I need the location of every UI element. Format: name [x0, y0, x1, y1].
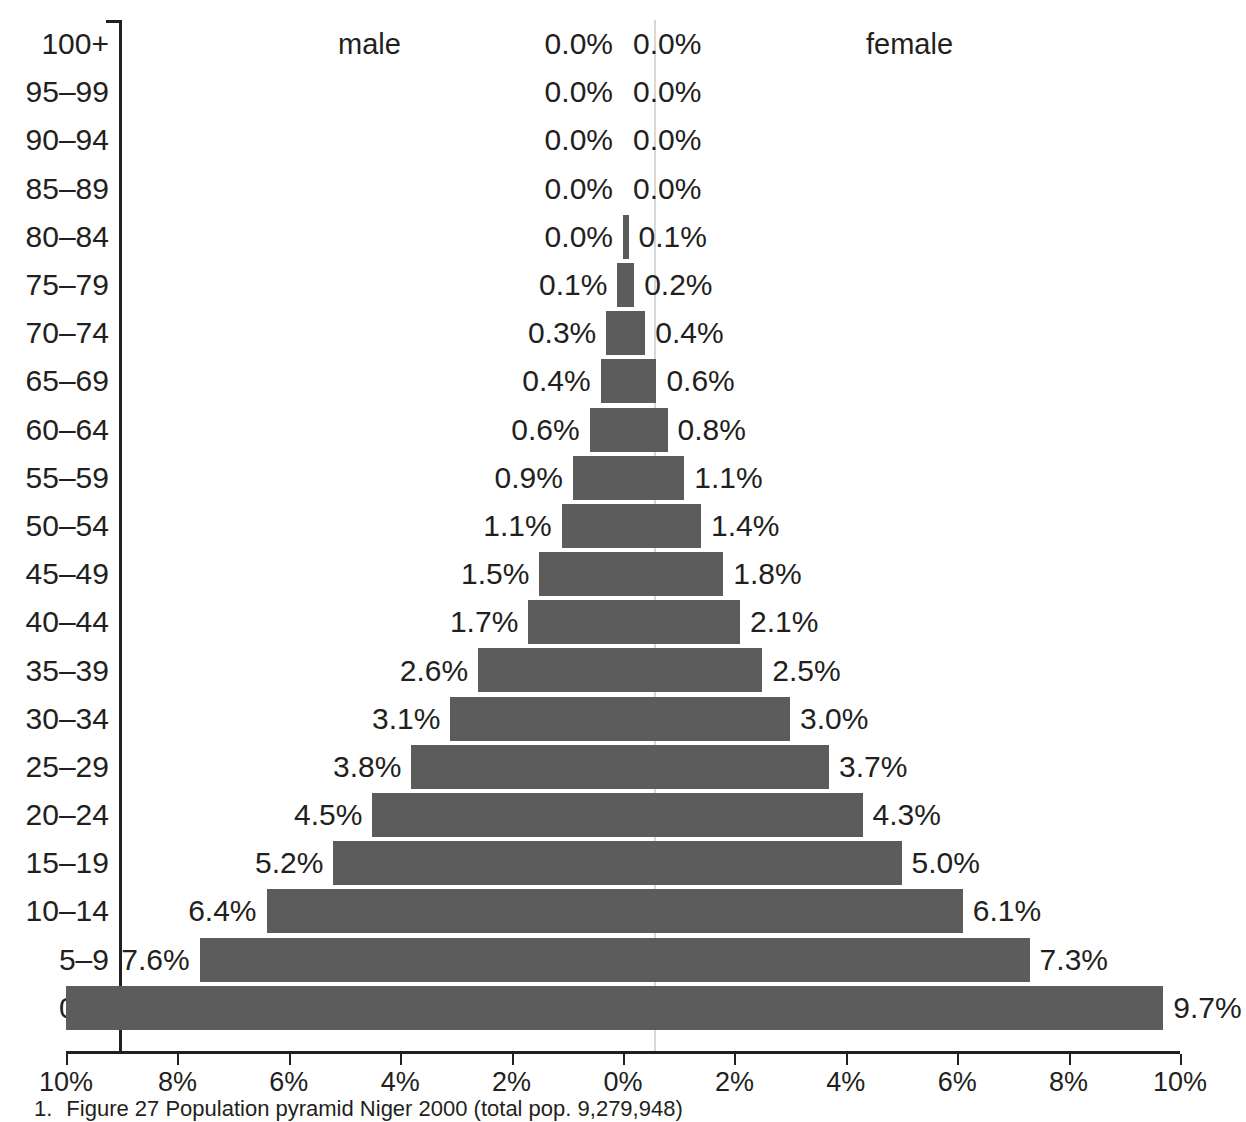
value-label-male: 0.4%	[522, 364, 590, 398]
value-label-female: 0.0%	[633, 75, 701, 109]
x-axis-tick	[623, 1054, 625, 1065]
value-label-female: 2.5%	[772, 654, 840, 688]
value-label-female: 0.0%	[633, 123, 701, 157]
bar-female	[623, 986, 1163, 1030]
x-axis-tick-label: 10%	[39, 1066, 93, 1098]
pyramid-row: 40–441.7%2.1%	[0, 598, 1246, 646]
bar-female	[623, 600, 740, 644]
pyramid-row: 100+0.0%0.0%malefemale	[0, 20, 1246, 68]
x-axis-tick	[734, 1054, 736, 1065]
age-group-label: 30–34	[26, 702, 109, 736]
bar-female	[623, 889, 963, 933]
bar-female	[623, 793, 863, 837]
pyramid-row: 45–491.5%1.8%	[0, 550, 1246, 598]
bar-male	[411, 745, 623, 789]
age-group-label: 75–79	[26, 268, 109, 302]
value-label-male: 0.0%	[545, 172, 613, 206]
bar-male	[66, 986, 623, 1030]
age-group-label: 55–59	[26, 461, 109, 495]
pyramid-row: 90–940.0%0.0%	[0, 116, 1246, 164]
age-group-label: 20–24	[26, 798, 109, 832]
pyramid-row: 65–690.4%0.6%	[0, 357, 1246, 405]
age-group-label: 5–9	[59, 943, 109, 977]
value-label-male: 1.5%	[461, 557, 529, 591]
caption-text: Figure 27 Population pyramid Niger 2000 …	[66, 1096, 682, 1121]
age-group-label: 25–29	[26, 750, 109, 784]
value-label-male: 1.7%	[450, 605, 518, 639]
bar-female	[623, 648, 762, 692]
bar-male	[333, 841, 623, 885]
bar-male	[450, 697, 623, 741]
pyramid-row: 35–392.6%2.5%	[0, 646, 1246, 694]
value-label-female: 0.2%	[644, 268, 712, 302]
x-axis-tick	[846, 1054, 848, 1065]
value-label-male: 0.0%	[545, 123, 613, 157]
pyramid-row: 15–195.2%5.0%	[0, 839, 1246, 887]
bar-male	[562, 504, 623, 548]
plot-area: 100+0.0%0.0%malefemale95–990.0%0.0%90–94…	[0, 0, 1246, 1060]
x-axis-tick-label: 8%	[1049, 1066, 1088, 1098]
value-label-female: 6.1%	[973, 894, 1041, 928]
x-axis-tick-label: 6%	[269, 1066, 308, 1098]
value-label-female: 0.6%	[666, 364, 734, 398]
value-label-female: 2.1%	[750, 605, 818, 639]
x-axis-tick	[512, 1054, 514, 1065]
bar-female	[623, 408, 668, 452]
x-axis-tick-label: 6%	[938, 1066, 977, 1098]
value-label-female: 1.8%	[733, 557, 801, 591]
bar-male	[573, 456, 623, 500]
value-label-male: 0.0%	[545, 75, 613, 109]
bar-male	[606, 311, 623, 355]
age-group-label: 35–39	[26, 654, 109, 688]
bar-female	[623, 504, 701, 548]
age-group-label: 50–54	[26, 509, 109, 543]
age-group-label: 85–89	[26, 172, 109, 206]
pyramid-rows: 100+0.0%0.0%malefemale95–990.0%0.0%90–94…	[0, 20, 1246, 1032]
pyramid-row: 55–590.9%1.1%	[0, 454, 1246, 502]
bar-male	[267, 889, 623, 933]
value-label-male: 0.1%	[539, 268, 607, 302]
pyramid-row: 75–790.1%0.2%	[0, 261, 1246, 309]
age-group-label: 45–49	[26, 557, 109, 591]
bar-female	[623, 697, 790, 741]
x-axis-tick	[177, 1054, 179, 1065]
bar-female	[623, 215, 629, 259]
pyramid-row: 85–890.0%0.0%	[0, 165, 1246, 213]
value-label-male: 7.6%	[121, 943, 189, 977]
bar-female	[623, 745, 829, 789]
x-axis-tick-label: 10%	[1153, 1066, 1207, 1098]
bar-male	[478, 648, 623, 692]
value-label-male: 0.9%	[494, 461, 562, 495]
bar-male	[528, 600, 623, 644]
pyramid-row: 5–97.6%7.3%	[0, 936, 1246, 984]
bar-female	[623, 552, 723, 596]
pyramid-row: 70–740.3%0.4%	[0, 309, 1246, 357]
x-axis-tick	[1180, 1054, 1182, 1065]
bar-male	[372, 793, 623, 837]
age-group-label: 95–99	[26, 75, 109, 109]
value-label-male: 1.1%	[483, 509, 551, 543]
pyramid-row: 10–146.4%6.1%	[0, 887, 1246, 935]
bar-male	[200, 938, 623, 982]
figure-caption: 1.Figure 27 Population pyramid Niger 200…	[34, 1096, 683, 1122]
age-group-label: 10–14	[26, 894, 109, 928]
value-label-male: 0.3%	[528, 316, 596, 350]
x-axis-tick-label: 8%	[158, 1066, 197, 1098]
value-label-female: 1.4%	[711, 509, 779, 543]
value-label-male: 3.1%	[372, 702, 440, 736]
x-axis-tick-label: 4%	[381, 1066, 420, 1098]
value-label-female: 1.1%	[694, 461, 762, 495]
value-label-female: 0.8%	[678, 413, 746, 447]
x-axis-tick-label: 0%	[603, 1066, 642, 1098]
value-label-female: 0.0%	[633, 27, 701, 61]
value-label-female: 3.7%	[839, 750, 907, 784]
value-label-female: 5.0%	[912, 846, 980, 880]
age-group-label: 60–64	[26, 413, 109, 447]
legend-label-female: female	[866, 27, 953, 61]
bar-male	[601, 359, 623, 403]
age-group-label: 40–44	[26, 605, 109, 639]
value-label-male: 0.6%	[511, 413, 579, 447]
bar-female	[623, 359, 656, 403]
bar-female	[623, 311, 645, 355]
